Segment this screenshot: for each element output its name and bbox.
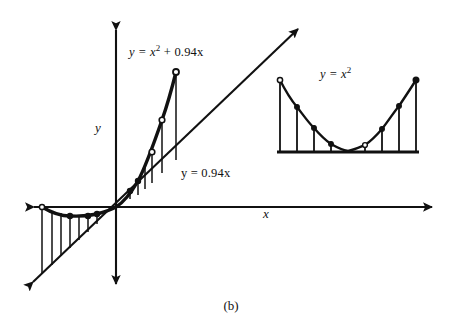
axes-group xyxy=(34,30,432,284)
curve-quadratic-plus-line xyxy=(42,72,176,216)
inset-parabola-group xyxy=(277,77,419,152)
label-quadratic-plus-line: y = x2 + 0.94x xyxy=(129,43,204,60)
label-reference-line: y = 0.94x xyxy=(181,166,230,181)
label-inset-parabola: y = x2 xyxy=(320,65,351,82)
label-quad-exponent: 2 xyxy=(156,43,161,53)
label-quad-lhs: y = x xyxy=(129,45,156,59)
reference-line-094x xyxy=(33,29,298,282)
figure-graphic xyxy=(0,0,462,331)
x-axis-label: x xyxy=(263,206,269,222)
label-inset-exponent: 2 xyxy=(347,65,352,75)
inset-markers xyxy=(277,77,418,147)
y-axis-label: y xyxy=(95,120,101,136)
inset-curve xyxy=(280,80,416,151)
label-inset-lhs: y = x xyxy=(320,67,347,81)
inset-connectors xyxy=(280,80,416,151)
figure-caption: (b) xyxy=(0,298,462,314)
figure-container: y = x2 + 0.94x y = 0.94x y = x2 y x (b) xyxy=(0,0,462,331)
label-quad-rhs: + 0.94x xyxy=(164,45,204,59)
curve-markers xyxy=(39,69,179,219)
label-line-text: y = 0.94x xyxy=(181,166,230,180)
